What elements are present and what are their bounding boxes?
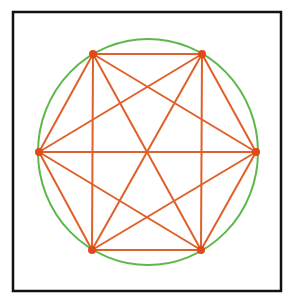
vertex-top-left <box>89 50 97 58</box>
edge-top-left-left <box>39 54 93 152</box>
vertex-right <box>252 148 260 156</box>
diagram-canvas <box>0 0 289 307</box>
edge-bottom-left-left <box>39 152 92 250</box>
edges-group <box>39 54 256 250</box>
vertex-bottom-right <box>197 246 205 254</box>
edge-right-bottom-left <box>92 152 256 250</box>
vertex-left <box>35 148 43 156</box>
vertex-bottom-left <box>88 246 96 254</box>
edge-bottom-right-left <box>39 152 201 250</box>
vertex-top-right <box>198 50 206 58</box>
edge-top-right-left <box>39 54 202 152</box>
